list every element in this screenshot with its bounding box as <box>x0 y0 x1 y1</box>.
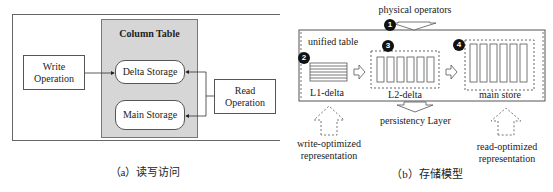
badge-3: 3 <box>382 40 394 52</box>
write-optimized-line1: write-optimized <box>290 138 368 150</box>
panel-a-arrows <box>0 0 280 192</box>
caption-a: （a）读写访问 <box>100 166 190 178</box>
caption-b: （b）存储模型 <box>382 168 472 180</box>
physical-operators-label: physical operators <box>375 4 455 16</box>
write-optimized-line2: representation <box>290 150 368 162</box>
l1-delta-label: L1-delta <box>302 87 352 99</box>
badge-2: 2 <box>298 52 310 64</box>
badge-4: 4 <box>453 39 465 51</box>
read-optimized-line2: representation <box>468 153 546 165</box>
l2-delta-label: L2-delta <box>380 89 430 101</box>
persistency-layer-label: persistency Layer <box>380 115 450 127</box>
l1-delta-rows <box>310 63 347 81</box>
read-optimized-line1: read-optimized <box>468 141 546 153</box>
main-store-label: main store <box>470 89 530 101</box>
panel-a: Column Table Delta Storage Main Storage … <box>0 0 280 192</box>
unified-table-label: unified table <box>308 36 358 48</box>
badge-1: 1 <box>384 19 396 31</box>
panel-b: physical operators 1 unified table 2 3 4… <box>270 0 553 192</box>
